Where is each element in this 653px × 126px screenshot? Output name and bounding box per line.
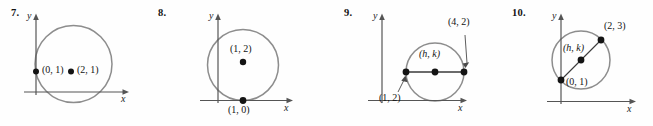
point-dot-2-1 [68, 69, 74, 75]
point-dot-0-1 [33, 69, 39, 75]
y-axis-arrowhead [379, 14, 385, 21]
y-axis-arrowhead [33, 14, 39, 21]
point-dot-h-k [432, 69, 439, 76]
y-axis-label: y [27, 10, 31, 21]
leader-line-1-2 [398, 80, 404, 92]
figure-sheet: 7. y x (0, 1) (2, 1) 8. [0, 0, 653, 126]
x-axis-label: x [458, 102, 462, 113]
y-axis-label: y [209, 10, 213, 21]
y-axis-label: y [552, 10, 556, 21]
point-dot-4-2 [461, 69, 468, 76]
point-label-1-0: (1, 0) [228, 104, 250, 115]
x-axis-label: x [284, 102, 288, 113]
point-dot-1-0 [240, 97, 247, 104]
point-dot-1-2 [240, 59, 246, 65]
figure-7-graphic [0, 0, 150, 126]
point-label-h-k: (h, k) [419, 48, 440, 59]
figure-panel-7: 7. y x (0, 1) (2, 1) [0, 0, 150, 126]
point-dot-0-1 [558, 77, 565, 84]
point-label-h-k: (h, k) [563, 42, 584, 53]
point-dot-2-3 [598, 37, 605, 44]
x-axis-label: x [121, 93, 125, 104]
y-axis-arrowhead [215, 14, 221, 21]
x-axis-label: x [627, 103, 631, 114]
point-dot-h-k [578, 57, 585, 64]
figure-panel-8: 8. y x (1, 2) (1, 0) [150, 0, 310, 126]
point-label-1-2: (1, 2) [230, 43, 252, 54]
leader-line-4-2 [465, 35, 467, 63]
point-dot-1-2 [403, 69, 410, 76]
point-label-0-1: (0, 1) [566, 76, 588, 87]
figure-panel-10: 10. y x (2, 3) (h, k) (0, 1) [485, 0, 653, 126]
point-label-1-2: (1, 2) [379, 92, 401, 103]
y-axis-arrowhead [558, 14, 564, 21]
y-axis-label: y [373, 10, 377, 21]
point-label-0-1: (0, 1) [42, 64, 64, 75]
figure-panel-9: 9. y x (4, 2) (h, k) (1, 2) [310, 0, 485, 126]
point-label-4-2: (4, 2) [448, 16, 470, 27]
point-label-2-3: (2, 3) [604, 20, 626, 31]
point-label-2-1: (2, 1) [77, 64, 99, 75]
